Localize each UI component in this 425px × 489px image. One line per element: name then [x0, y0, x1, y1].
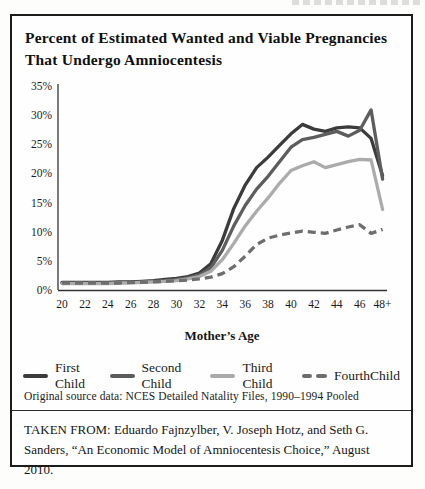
chart: 0%5%10%15%20%25%30%35%202224262830323436…: [26, 74, 398, 324]
cropped-text-artifact: [292, 0, 422, 5]
legend-item-first-child: First Child: [23, 360, 110, 392]
legend-item-third-child: Third Child: [210, 360, 302, 392]
chart-canvas: 0%5%10%15%20%25%30%35%202224262830323436…: [26, 74, 398, 324]
legend-item-second-child: Second Child: [110, 360, 211, 392]
first-child-line-swatch-icon: [23, 374, 48, 379]
x-tick-label: 26: [125, 298, 137, 310]
x-tick-label: 44: [331, 298, 343, 310]
series-line-third-child: [62, 159, 383, 283]
third-child-line-swatch-icon: [210, 374, 235, 379]
legend: First Child Second Child Third Child Fou…: [12, 360, 411, 392]
x-tick-label: 48+: [374, 298, 392, 310]
legend-label-fourth-child: FourthChild: [334, 368, 400, 384]
x-tick-label: 32: [194, 298, 206, 310]
figure-title-line2: That Undergo Amniocentesis: [25, 49, 401, 71]
x-tick-label: 40: [285, 298, 297, 310]
legend-label-second-child: Second Child: [142, 360, 211, 392]
x-tick-label: 24: [102, 298, 114, 310]
second-child-line-swatch-icon: [110, 374, 135, 379]
fourth-child-dashed-swatch-icon: [302, 374, 327, 379]
series-line-fourthchild: [62, 225, 383, 283]
source-note: Original source data: NCES Detailed Nata…: [24, 390, 401, 402]
citation: TAKEN FROM: Eduardo Fajnzylber, V. Josep…: [24, 420, 397, 480]
x-tick-label: 38: [262, 298, 274, 310]
y-tick-label: 15%: [31, 197, 53, 209]
y-tick-label: 30%: [31, 109, 53, 121]
x-tick-label: 30: [171, 298, 183, 310]
page: Percent of Estimated Wanted and Viable P…: [0, 0, 425, 489]
x-tick-label: 22: [79, 298, 91, 310]
y-tick-label: 10%: [31, 226, 53, 238]
y-tick-label: 5%: [37, 255, 53, 267]
y-tick-label: 35%: [31, 80, 53, 92]
legend-label-third-child: Third Child: [242, 360, 302, 392]
figure-title-line1: Percent of Estimated Wanted and Viable P…: [25, 27, 401, 49]
x-tick-label: 20: [56, 298, 68, 310]
x-axis-title: Mother’s Age: [32, 328, 412, 344]
x-tick-label: 42: [308, 298, 320, 310]
legend-label-first-child: First Child: [55, 360, 110, 392]
divider-rule: [12, 410, 411, 411]
y-tick-label: 20%: [31, 167, 53, 179]
x-tick-label: 36: [239, 298, 251, 310]
y-tick-label: 25%: [31, 138, 53, 150]
x-tick-label: 34: [217, 298, 229, 310]
figure-box: Percent of Estimated Wanted and Viable P…: [10, 14, 413, 467]
figure-title: Percent of Estimated Wanted and Viable P…: [25, 27, 401, 71]
x-tick-label: 28: [148, 298, 160, 310]
y-tick-label: 0%: [37, 284, 53, 296]
legend-item-fourth-child: FourthChild: [302, 368, 400, 384]
x-tick-label: 46: [354, 298, 366, 310]
